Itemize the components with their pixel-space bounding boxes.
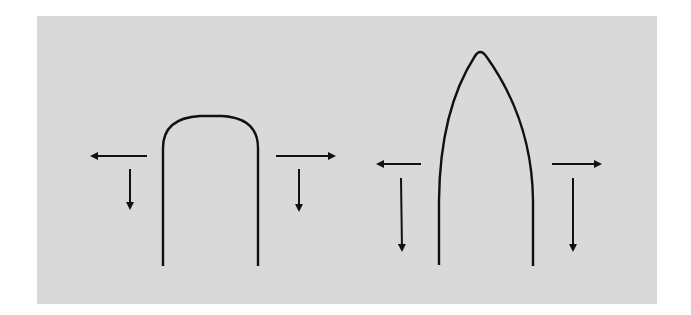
left-shape-arrows — [92, 156, 334, 210]
pointed-arch-shape — [439, 52, 533, 266]
arrow-left-down-icon — [401, 178, 402, 250]
diagram-canvas — [0, 0, 691, 315]
rounded-arch-shape — [163, 116, 258, 266]
right-shape-arrows — [378, 164, 600, 250]
